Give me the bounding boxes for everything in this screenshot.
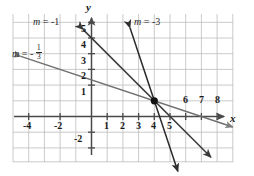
x-tick-label-2: 2	[120, 121, 125, 131]
slope-variable-m: m	[12, 48, 19, 59]
x-tick-label-neg4: -4	[23, 121, 31, 131]
equals-sign: =	[144, 16, 150, 27]
slope-variable-m: m	[33, 16, 40, 27]
y-tick-label-3: 3	[81, 56, 86, 66]
slope-label-negative-one: m = -1	[33, 17, 59, 27]
y-axis-label: y	[86, 2, 91, 13]
slope-label-negative-one-third: m = - 1 3	[12, 44, 42, 62]
y-tick-label-2: 2	[81, 71, 86, 81]
y-tick-label-neg2: -2	[74, 134, 82, 144]
equals-sign: =	[43, 16, 49, 27]
x-tick-label-7: 7	[199, 95, 204, 105]
y-tick-label-4: 4	[81, 40, 86, 50]
x-tick-label-3: 3	[136, 121, 141, 131]
graph-figure: x y -4 -2 1 2 3 4 5 6 7 8 5 4 3 2 1 -2 m…	[0, 0, 254, 176]
x-tick-label-neg2: -2	[54, 121, 62, 131]
x-tick-label-6: 6	[183, 95, 188, 105]
fraction-one-third: 1 3	[36, 44, 42, 62]
equals-sign: =	[22, 48, 28, 59]
x-tick-label-1: 1	[104, 121, 109, 131]
slope-variable-m: m	[134, 16, 141, 27]
slope-value: -3	[152, 16, 160, 27]
x-tick-label-5: 5	[167, 121, 172, 131]
intersection-point-marker	[151, 97, 158, 104]
x-tick-label-8: 8	[215, 95, 220, 105]
fraction-denominator: 3	[36, 53, 42, 61]
slope-sign: -	[30, 48, 33, 59]
y-tick-label-1: 1	[81, 87, 86, 97]
x-tick-label-4: 4	[151, 121, 156, 131]
slope-value: -1	[51, 16, 59, 27]
x-axis-label: x	[230, 113, 236, 124]
slope-label-negative-three: m = -3	[134, 17, 160, 27]
y-tick-label-5: 5	[81, 24, 86, 34]
